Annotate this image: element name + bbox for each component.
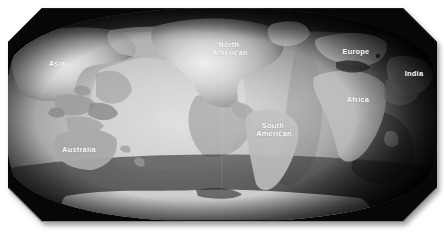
world-tectonic-plate-map: Asia North American Europe India Africa … <box>0 0 444 234</box>
label-europe-line-1: Europe <box>343 47 370 56</box>
label-south-american-line-2: American <box>256 129 292 138</box>
label-africa: Africa <box>347 95 370 104</box>
label-india-line-1: India <box>405 69 424 78</box>
globe-body <box>0 0 444 234</box>
label-asia-line-1: Asia <box>49 59 66 68</box>
label-india: India <box>405 69 424 78</box>
label-asia: Asia <box>49 59 66 68</box>
label-europe: Europe <box>343 47 370 56</box>
map-canvas: Asia North American Europe India Africa … <box>0 0 444 234</box>
map-content <box>0 0 444 234</box>
label-australia: Australia <box>62 145 97 154</box>
label-africa-line-1: Africa <box>347 95 370 104</box>
label-north-american-line-2: American <box>212 48 248 57</box>
label-australia-line-1: Australia <box>62 145 97 154</box>
